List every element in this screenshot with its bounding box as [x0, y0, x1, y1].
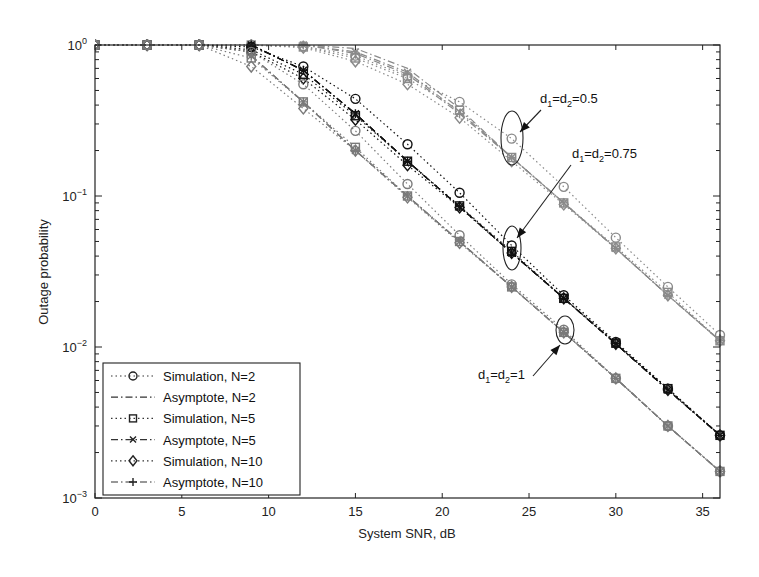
annotation-label: d1=d2=0.5 [540, 91, 598, 109]
circle-marker [507, 134, 516, 143]
circle-marker [455, 97, 464, 106]
legend-label: Asymptote, N=2 [163, 390, 256, 405]
x-tick-label: 30 [609, 504, 623, 519]
circle-marker [351, 126, 360, 135]
plus-marker [351, 49, 360, 58]
series-line [303, 45, 720, 341]
legend-label: Asymptote, N=5 [163, 433, 256, 448]
outage-probability-chart: 0510152025303510010−110−210−3 d1=d2=0.5d… [0, 0, 759, 577]
circle-marker [611, 233, 620, 242]
x-tick-label: 35 [695, 504, 709, 519]
legend-label: Simulation, N=5 [163, 411, 255, 426]
x-tick-label: 25 [522, 504, 536, 519]
legend-label: Asymptote, N=10 [163, 475, 263, 490]
series-line [303, 45, 720, 341]
y-tick-label: 10−3 [62, 489, 87, 506]
y-axis-label: Outage probability [36, 219, 51, 325]
y-tick-label: 100 [68, 36, 87, 53]
circle-marker [403, 180, 412, 189]
series-line [303, 45, 720, 341]
x-axis-label: System SNR, dB [358, 526, 456, 541]
x-tick-label: 15 [348, 504, 362, 519]
y-tick-label: 10−1 [62, 187, 87, 204]
legend-label: Simulation, N=10 [163, 454, 262, 469]
x-tick-label: 0 [91, 504, 98, 519]
x-tick-label: 10 [261, 504, 275, 519]
legend-label: Simulation, N=2 [163, 369, 255, 384]
annotation-label: d1=d2=1 [478, 367, 525, 385]
y-tick-label: 10−2 [62, 338, 87, 355]
series-line [251, 56, 720, 472]
annotation-label: d1=d2=0.75 [572, 146, 637, 164]
circle-marker [351, 94, 360, 103]
legend: Simulation, N=2Asymptote, N=2Simulation,… [103, 363, 300, 495]
arrow-head-icon [517, 228, 526, 238]
circle-marker [559, 182, 568, 191]
x-tick-label: 20 [435, 504, 449, 519]
x-tick-label: 5 [178, 504, 185, 519]
series-line [95, 45, 720, 335]
circle-marker [455, 188, 464, 197]
